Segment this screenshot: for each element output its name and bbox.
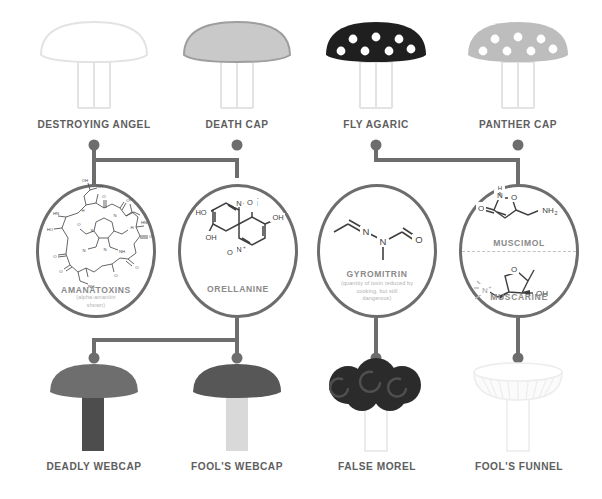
infographic-root: DESTROYING ANGEL DEATH CAP FLY AGARIC PA… (0, 0, 602, 499)
mushroom-fools-webcap (193, 364, 281, 451)
mushroom-fools-funnel (474, 363, 562, 451)
label-deadly-webcap: DEADLY WEBCAP (32, 460, 155, 472)
label-fools-webcap: FOOL'S WEBCAP (180, 460, 294, 472)
label-fools-funnel: FOOL'S FUNNEL (470, 460, 569, 472)
label-false-morel: FALSE MOREL (329, 460, 426, 472)
mushroom-false-morel (329, 358, 421, 451)
mushroom-deadly-webcap (50, 364, 138, 451)
bottom-row-mushrooms (0, 0, 602, 499)
